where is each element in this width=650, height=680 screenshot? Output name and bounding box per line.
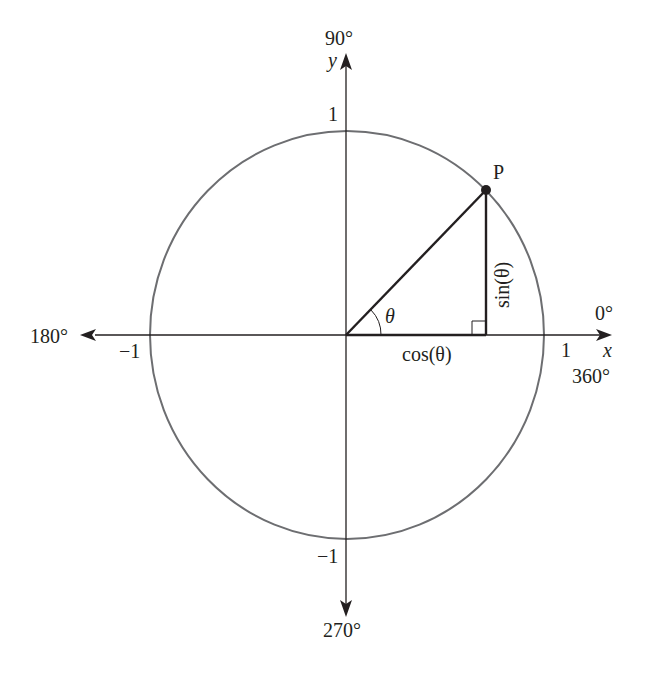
label-one-right: 1 xyxy=(561,339,571,361)
label-neg-one-left: −1 xyxy=(119,340,140,362)
radius-line xyxy=(346,190,486,335)
label-cos: cos(θ) xyxy=(402,343,452,366)
label-point-p: P xyxy=(493,161,504,183)
right-angle-marker xyxy=(472,321,486,335)
label-180-deg: 180° xyxy=(30,325,68,347)
theta-arc xyxy=(371,310,381,335)
label-90-deg: 90° xyxy=(325,27,353,49)
point-p-dot xyxy=(481,185,491,195)
label-theta: θ xyxy=(385,305,395,327)
unit-circle-diagram: 90° y 1 P θ cos(θ) sin(θ) 0° 1 x 360° 18… xyxy=(0,0,650,680)
label-0-deg: 0° xyxy=(595,302,613,324)
label-neg-one-bottom: −1 xyxy=(317,545,338,567)
label-270-deg: 270° xyxy=(323,619,361,641)
label-one-top: 1 xyxy=(328,103,338,125)
label-sin: sin(θ) xyxy=(491,262,514,308)
label-y-axis: y xyxy=(326,49,337,72)
label-x-axis: x xyxy=(602,339,612,361)
label-360-deg: 360° xyxy=(572,365,610,387)
x-axis-left-arrow-icon xyxy=(80,329,96,341)
